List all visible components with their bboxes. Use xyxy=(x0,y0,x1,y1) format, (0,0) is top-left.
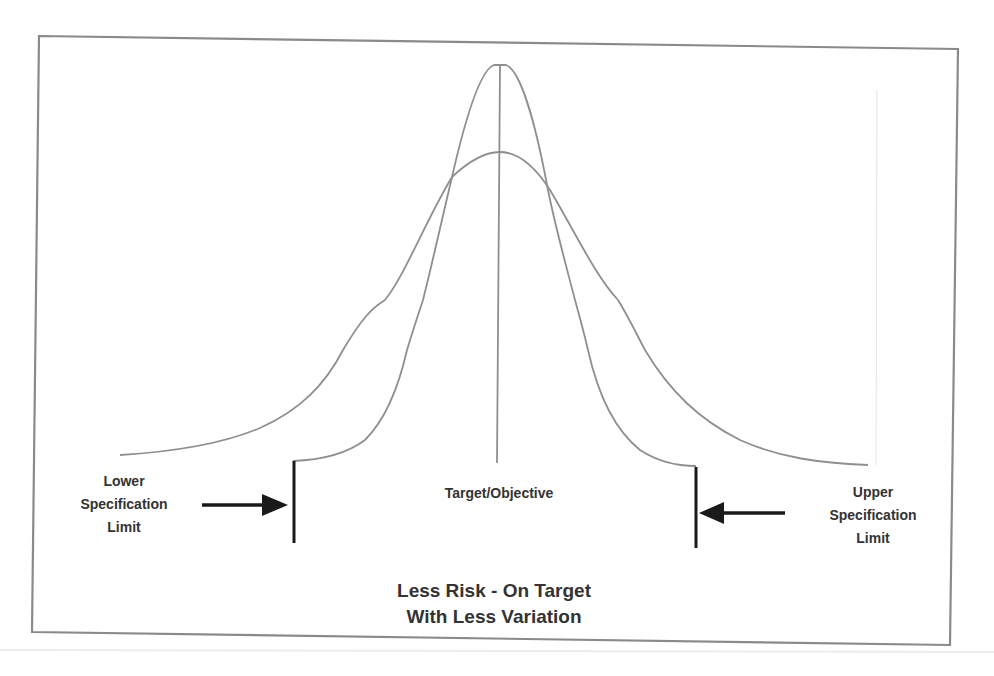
caption-line-1: Less Risk - On Target xyxy=(344,578,644,604)
narrow-distribution-curve xyxy=(293,65,696,466)
lower-spec-limit-label-line-2: Specification xyxy=(64,493,184,516)
lower-spec-limit-label-line-3: Limit xyxy=(64,516,184,539)
upper-spec-limit-label: Upper Specification Limit xyxy=(813,481,933,550)
lower-spec-limit-label-line-1: Lower xyxy=(64,470,184,493)
caption-line-2: With Less Variation xyxy=(344,604,644,630)
diagram-caption: Less Risk - On Target With Less Variatio… xyxy=(344,578,644,630)
frame-shadow xyxy=(0,650,994,652)
upper-spec-arrow-head-icon xyxy=(699,502,724,524)
lower-spec-arrow-head-icon xyxy=(262,494,288,516)
wide-distribution-curve xyxy=(120,152,868,465)
upper-spec-limit-label-line-2: Specification xyxy=(813,504,933,527)
lower-spec-limit-label: Lower Specification Limit xyxy=(64,470,184,539)
faint-edge-line xyxy=(876,90,877,465)
target-objective-label: Target/Objective xyxy=(394,484,604,502)
diagram-canvas xyxy=(0,0,994,676)
upper-spec-limit-label-line-3: Limit xyxy=(813,527,933,550)
upper-spec-limit-label-line-1: Upper xyxy=(813,481,933,504)
diagram-frame xyxy=(32,36,958,645)
target-line xyxy=(497,66,500,463)
